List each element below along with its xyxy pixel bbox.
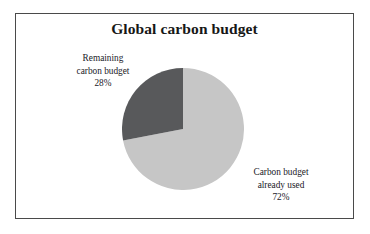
- pie-label-remaining-line2: carbon budget: [48, 65, 158, 78]
- pie-label-remaining-carbon-budget: Remaining carbon budget 28%: [48, 52, 158, 90]
- pie-label-carbon-budget-already-used: Carbon budget already used 72%: [222, 166, 340, 204]
- pie-label-used-line2: already used: [222, 179, 340, 192]
- pie-chart-figure: Global carbon budget Remaining carbon bu…: [0, 0, 370, 234]
- pie-label-remaining-percent: 28%: [48, 77, 158, 90]
- pie-label-remaining-line1: Remaining: [48, 52, 158, 65]
- pie-label-used-percent: 72%: [222, 191, 340, 204]
- chart-title: Global carbon budget: [15, 20, 354, 38]
- pie-label-used-line1: Carbon budget: [222, 166, 340, 179]
